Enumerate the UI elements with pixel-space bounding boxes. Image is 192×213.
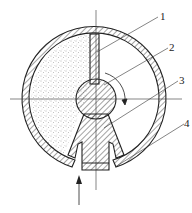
vane — [90, 34, 99, 84]
diagram-canvas: 1 2 3 4 — [0, 0, 192, 213]
label-1: 1 — [160, 10, 166, 22]
label-2: 2 — [169, 41, 175, 53]
inlet-arrow-icon — [76, 175, 82, 205]
label-4: 4 — [184, 117, 190, 129]
label-3: 3 — [179, 74, 185, 86]
